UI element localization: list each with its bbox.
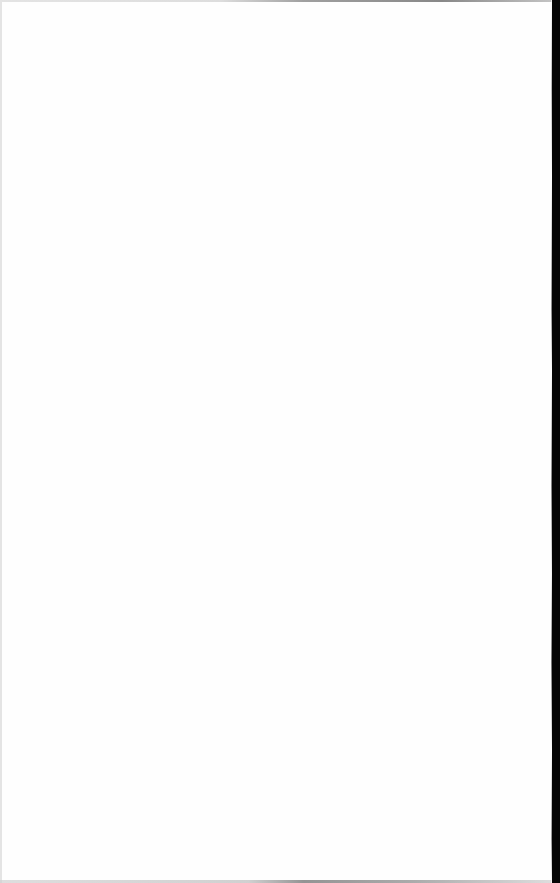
page-left-edge (0, 0, 2, 883)
scanned-document (0, 0, 560, 883)
scanner-edge (552, 0, 560, 883)
blank-page (0, 0, 552, 883)
page-top-edge (0, 0, 552, 2)
